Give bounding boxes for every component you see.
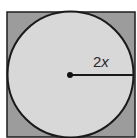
radius-label-variable: x xyxy=(100,53,109,70)
radius-label: 2x xyxy=(93,53,109,70)
center-point xyxy=(67,72,73,78)
circle-in-square-diagram: 2x xyxy=(0,0,137,138)
radius-label-coefficient: 2 xyxy=(93,53,101,70)
